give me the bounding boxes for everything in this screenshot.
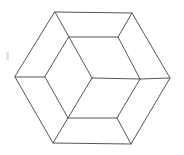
spoke-edge — [69, 37, 92, 78]
center-spokes — [68, 37, 140, 118]
spoke-edge — [92, 78, 140, 79]
hexagon-cube-diagram — [0, 0, 184, 155]
connector-edge — [117, 118, 131, 144]
spoke-edge — [68, 78, 92, 118]
inner-hexagon — [45, 37, 140, 118]
connector-edge — [55, 12, 69, 37]
connector-edge — [140, 78, 170, 79]
connector-edge — [118, 13, 132, 37]
connector-edge — [53, 118, 68, 143]
scan-smudge — [6, 52, 9, 60]
